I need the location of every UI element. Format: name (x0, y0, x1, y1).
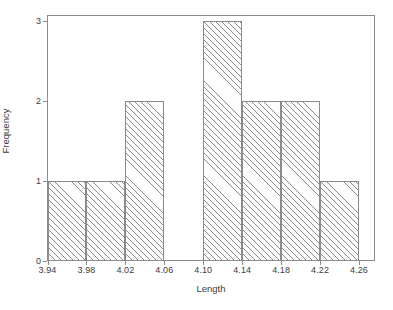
x-axis-tick-label: 4.26 (350, 265, 368, 275)
y-axis-title: Frequency (0, 8, 14, 254)
x-axis-title: Length (47, 283, 375, 294)
y-axis-tick-label: 3 (29, 16, 41, 26)
x-axis-tick-label: 4.02 (116, 265, 134, 275)
histogram-bar (281, 101, 320, 261)
histogram-bar (86, 181, 125, 261)
x-axis-tick-label: 3.98 (77, 265, 95, 275)
y-axis-tick (43, 261, 47, 262)
histogram-bar (320, 181, 359, 261)
y-axis-tick (43, 101, 47, 102)
y-axis-tick-label: 1 (29, 176, 41, 186)
x-axis-tick-label: 4.06 (155, 265, 173, 275)
y-axis-tick-label: 0 (29, 256, 41, 266)
histogram-bar (203, 21, 242, 261)
y-axis-tick-label: 2 (29, 96, 41, 106)
y-axis-tick (43, 181, 47, 182)
x-axis-tick-label: 4.10 (194, 265, 212, 275)
x-axis-tick-label: 4.14 (233, 265, 251, 275)
x-axis-tick-label: 3.94 (39, 265, 57, 275)
histogram-bar (242, 101, 281, 261)
x-axis-tick-label: 4.22 (311, 265, 329, 275)
y-axis-tick (43, 21, 47, 22)
histogram-figure: 3.943.984.024.064.104.144.184.224.26 012… (0, 0, 393, 310)
histogram-bar (48, 181, 87, 261)
x-axis-tick-label: 4.18 (272, 265, 290, 275)
histogram-bar (125, 101, 164, 261)
